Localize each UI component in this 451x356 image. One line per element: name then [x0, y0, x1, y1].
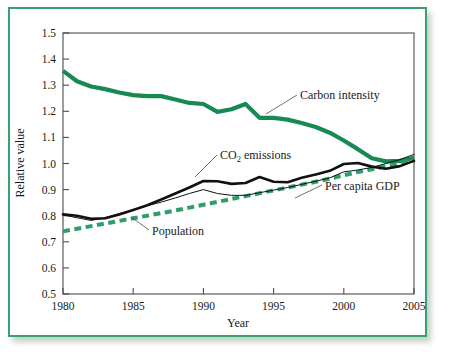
per-capita-gdp-label: Per capita GDP — [325, 179, 400, 193]
x-tick-label: 2000 — [332, 300, 355, 312]
x-axis-title: Year — [227, 316, 249, 330]
y-tick-label: 1.4 — [42, 53, 57, 65]
x-tick-label: 1995 — [262, 300, 285, 312]
carbon-intensity-label: Carbon intensity — [300, 88, 380, 102]
co2-emissions-label: CO2 emissions — [220, 148, 292, 164]
y-tick-label: 0.7 — [42, 236, 57, 248]
y-tick-label: 1.1 — [42, 131, 57, 143]
y-tick-label: 1.3 — [42, 79, 57, 91]
y-tick-label: 1.5 — [42, 27, 57, 39]
y-tick-label: 0.9 — [42, 184, 57, 196]
population-label: Population — [152, 224, 204, 238]
x-tick-label: 1980 — [52, 300, 75, 312]
y-tick-label: 0.5 — [42, 288, 57, 300]
carbon-intensity-chart: 0.50.60.70.80.91.01.11.21.31.41.5 198019… — [0, 0, 451, 356]
x-tick-label: 1985 — [122, 300, 145, 312]
y-tick-label: 0.6 — [42, 262, 57, 274]
figure-frame: 0.50.60.70.80.91.01.11.21.31.41.5 198019… — [8, 7, 427, 337]
x-tick-label: 1990 — [192, 300, 215, 312]
y-tick-label: 1.0 — [42, 158, 57, 170]
y-axis-title: Relative value — [13, 129, 27, 198]
y-tick-label: 0.8 — [42, 210, 57, 222]
x-tick-label: 2005 — [403, 300, 426, 312]
y-tick-label: 1.2 — [42, 105, 57, 117]
